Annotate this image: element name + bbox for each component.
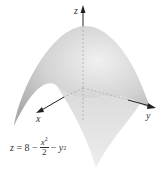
equation-fraction: x2 2 xyxy=(40,138,49,158)
equation-equals: = xyxy=(16,142,22,153)
x-axis-label: x xyxy=(36,114,40,124)
equation-minus-2: − xyxy=(51,142,57,153)
equation: z = 8 − x2 2 − y2 xyxy=(10,138,66,158)
z-axis-label: z xyxy=(74,6,78,16)
y-axis-arrowhead xyxy=(147,103,156,109)
y-axis-label: y xyxy=(146,111,150,121)
equation-constant: 8 xyxy=(25,142,30,153)
z-axis-arrowhead xyxy=(81,5,86,13)
equation-lhs: z xyxy=(10,142,14,153)
x-axis xyxy=(40,97,64,111)
equation-minus-1: − xyxy=(32,142,38,153)
